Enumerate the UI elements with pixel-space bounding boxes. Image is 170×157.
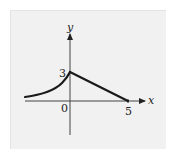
y-axis-label: y — [66, 21, 74, 34]
origin-label: 0 — [61, 102, 68, 115]
x-axis-label: x — [148, 94, 155, 107]
x-tick-label-5: 5 — [125, 105, 132, 118]
y-tick-label-3: 3 — [59, 67, 66, 80]
graph-svg: y x 3 0 5 — [0, 0, 170, 157]
curve-right-linear — [70, 72, 128, 101]
